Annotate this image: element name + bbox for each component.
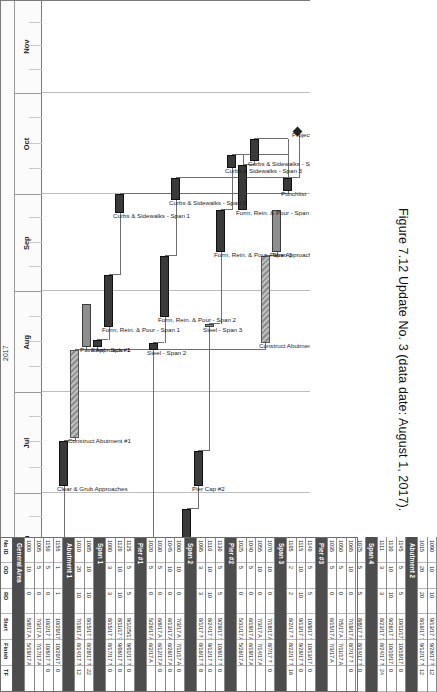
table-row[interactable]: 112010108/11/17 ?9/06/17 ?0 — [116, 537, 126, 692]
gantt-bar[interactable] — [82, 304, 91, 346]
group-label: Span 4 — [368, 543, 375, 564]
cell-text: 2 — [288, 592, 294, 595]
cell-text: 0 — [126, 669, 132, 672]
table-cell: 1005 — [35, 537, 44, 563]
cell-text: 10/10/17 ? — [388, 643, 394, 666]
cell-text: 6/19/17 A — [248, 618, 254, 641]
table-cell: 8/16/17 ? — [197, 640, 206, 666]
table-row[interactable]: 108510108/15/17 ?8/28/17 ?22 — [85, 537, 95, 692]
table-cell: 3 — [106, 589, 115, 615]
cell-text: 7/18/17 A — [76, 618, 82, 641]
gantt-bar-label: Construct Abutment #1 — [68, 437, 131, 444]
gantt-bar[interactable] — [261, 256, 270, 344]
table-cell: 9/26/17 ? — [387, 615, 396, 641]
timeline-month-jul: Jul — [15, 392, 43, 493]
cell-text: 10 — [298, 566, 304, 572]
cell-text: 8/22/17 ? — [288, 643, 294, 665]
cell-text: 1045 — [167, 540, 173, 552]
table-cell: 5 — [328, 563, 337, 589]
group-band-span-4: Span 4 — [366, 537, 378, 692]
gantt-bar[interactable] — [70, 350, 79, 438]
table-row[interactable]: 11551110/20/17 ?10/20/17 ?0 — [54, 537, 64, 692]
table-row[interactable]: 10601007/3/17 A7/11/17 A0 — [175, 537, 185, 692]
table-row[interactable]: 111010108/24/17 ?9/12/17 ?0 — [206, 537, 216, 692]
table-cell: 7/17/17 A — [35, 640, 44, 666]
cell-text: 1065 — [348, 540, 354, 552]
cell-text: 5 — [157, 566, 163, 569]
table-cell: 10/11/17 ? — [397, 615, 406, 641]
activity-table-columns: No IDODRDStartFinishTFGeneral Area100010… — [0, 537, 437, 692]
table-row[interactable]: 1105228/2/17 ?8/22/17 ?16 — [287, 537, 297, 692]
table-row[interactable]: 101020107/18/17 A8/14/17 ?12 — [75, 537, 85, 692]
table-cell — [237, 666, 246, 692]
gantt-bar[interactable] — [272, 210, 281, 252]
gantt-bar[interactable] — [250, 139, 259, 162]
cell-text: 5/8/17 A — [26, 618, 32, 638]
table-row[interactable]: 1080338/15/17 ?8/17/17 ?0 — [106, 537, 116, 692]
table-row[interactable]: 1130559/29/17 ?10/6/17 ?0 — [216, 537, 226, 692]
table-row[interactable]: 1030506/6/17 A6/12/17 A0 — [156, 537, 166, 692]
table-row[interactable]: 1111338/23/17 ?8/24/17 ?24 — [378, 537, 388, 692]
column-header: No ID — [0, 537, 12, 563]
gantt-bar-label: Steel - Span 1 — [91, 346, 130, 353]
table-row[interactable]: 1125559/1/25/179/01/17 ?0 — [125, 537, 135, 692]
table-row[interactable]: 111510109/13/17 ?9/26/17 ?0 — [297, 537, 307, 692]
cell-text: 10/9/17 ? — [307, 618, 313, 640]
cell-text: 3 — [107, 592, 113, 595]
table-row[interactable]: 10551007/3/17 A7/14/17 A — [256, 537, 266, 692]
gantt-bar[interactable] — [283, 178, 292, 191]
cell-text: 8/28/17 ? — [86, 643, 92, 665]
table-row[interactable]: 1095338/1/17 ?8/16/17 ?8 — [197, 537, 207, 692]
gantt-bar[interactable] — [216, 210, 225, 252]
gantt-bar[interactable] — [59, 441, 68, 486]
cell-text: 5 — [307, 566, 313, 569]
table-row[interactable]: 11455510/11/17 ?10/18/17 ?0 — [397, 537, 407, 692]
cell-text: 5 — [398, 566, 404, 569]
table-row[interactable]: 113010109/26/17 ?10/10/17 ?0 — [387, 537, 397, 692]
cell-text: 0 — [176, 669, 182, 672]
table-row[interactable]: 1035506/15/17 A7/3/17 A — [328, 537, 338, 692]
cell-text: 0 — [267, 669, 273, 672]
table-row[interactable]: 10651007/19/17 A8/7/17 ?0 — [347, 537, 357, 692]
table-cell: 5 — [35, 563, 44, 589]
table-cell: 0 — [156, 589, 165, 615]
gantt-bar[interactable] — [104, 275, 113, 327]
table-row[interactable]: 1025505/31/17 A5/26/17 A — [237, 537, 247, 692]
cell-text: 7/19/17 A — [348, 618, 354, 641]
cell-text: 16 — [288, 669, 294, 675]
group-label: Abutment 2 — [408, 543, 415, 578]
table-header-column[interactable]: No IDODRDStartFinishTF — [0, 537, 13, 692]
gantt-bar[interactable] — [115, 194, 124, 213]
table-row[interactable]: 10701007/18/17 A8/7/17 ?0 — [266, 537, 276, 692]
cell-text: 9/1/25/17 — [126, 618, 132, 640]
gantt-bar[interactable] — [227, 155, 236, 168]
table-row[interactable]: 11405510/9/17 ?10/13/17 ?0 — [306, 537, 316, 692]
table-row[interactable]: 11505010/2/17 ?10/6/17 ?0 — [44, 537, 54, 692]
table-row[interactable]: 10001005/8/17 A5/19/17 A — [25, 537, 35, 692]
gantt-bar-label: Pave Approach #1 — [270, 251, 310, 258]
table-row[interactable]: 10451006/13/17 A6/26/17 A0 — [166, 537, 176, 692]
table-row[interactable]: 1005507/3/17 A7/17/17 A — [35, 537, 45, 692]
gantt-bar-label: Construct Abutment #2 — [259, 342, 310, 349]
gantt-bar-label: Punchlist — [281, 190, 306, 197]
table-row[interactable]: 101520208/16/17 ?9/12/17 ?12 — [418, 537, 428, 692]
table-cell: 8/1/17 ? — [197, 615, 206, 641]
table-cell: 5 — [147, 563, 156, 589]
table-row[interactable]: 1050507/5/17 A7/11/17 A — [337, 537, 347, 692]
gantt-bar[interactable] — [160, 256, 169, 318]
gantt-bar[interactable] — [171, 178, 180, 201]
table-cell: 8/11/17 ? — [116, 615, 125, 641]
table-row[interactable]: 1075558/8/17 ?8/14/17 ?0 — [356, 537, 366, 692]
table-cell — [256, 666, 265, 692]
table-row[interactable]: 1040506/19/17 A6/19/17 A — [247, 537, 257, 692]
gantt-bar[interactable] — [194, 451, 203, 487]
table-row[interactable]: 1020505/26/17 A6/2/17 A — [147, 537, 157, 692]
cell-text: 1130 — [217, 540, 223, 552]
week-tick — [29, 441, 43, 442]
table-row[interactable]: 109010109/13/17 ?9/26/17 ?12 — [428, 537, 437, 692]
table-cell: 6/13/17 A — [166, 615, 175, 641]
gridline — [42, 391, 310, 392]
cell-text: 0 — [45, 592, 51, 595]
table-cell: 8/15/17 ? — [106, 615, 115, 641]
gantt-bar-label: Steel - Span 3 — [203, 326, 242, 333]
